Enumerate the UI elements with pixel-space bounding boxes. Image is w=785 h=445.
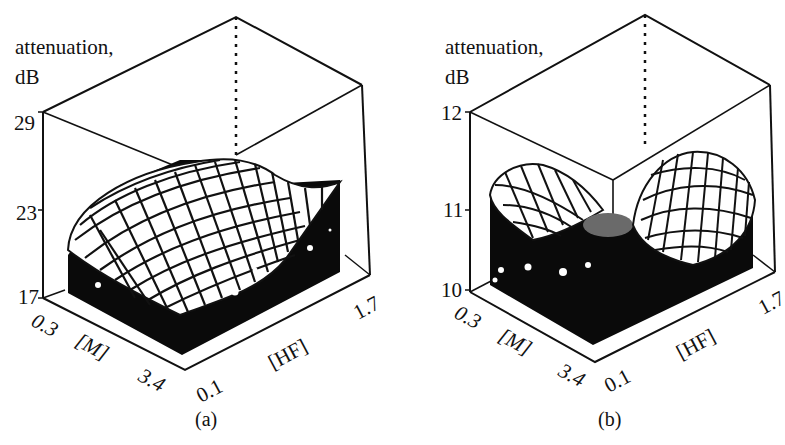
z-axis-label-line2: dB — [15, 67, 40, 88]
z-axis-label-line1: attenuation, — [445, 37, 544, 58]
z-tick-bottom: 17 — [18, 287, 39, 308]
panel-caption-b: (b) — [598, 408, 621, 431]
z-tick-mid: 23 — [16, 203, 37, 224]
panel-caption-a: (a) — [195, 408, 217, 431]
z-axis-label-line2: dB — [445, 67, 470, 88]
z-tick-top: 29 — [14, 113, 35, 134]
z-tick-top: 12 — [441, 103, 462, 124]
surface-plot-a — [0, 0, 392, 445]
chart-panel-b: attenuation, dB 12 11 10 0.3 [M] 3.4 0.1… — [393, 0, 785, 445]
z-axis-label-line1: attenuation, — [15, 37, 114, 58]
chart-panel-a: attenuation, dB 29 23 17 0.3 [M] 3.4 0.1… — [0, 0, 392, 445]
z-tick-mid: 11 — [443, 200, 463, 221]
z-tick-bottom: 10 — [441, 280, 462, 301]
